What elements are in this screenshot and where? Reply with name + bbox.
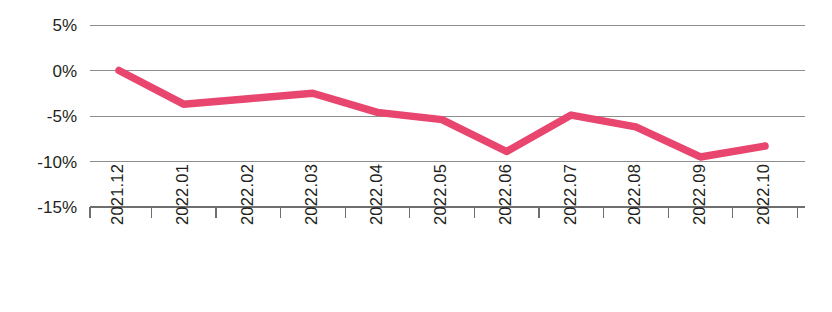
x-axis-tick-label: 2022.02	[238, 164, 256, 225]
x-axis-tick-label: 2022.03	[302, 164, 320, 225]
x-axis-tick-label: 2022.07	[561, 164, 579, 225]
y-axis-tick-label: 5%	[52, 16, 77, 35]
x-axis-tick-label: 2022.05	[431, 164, 449, 225]
x-axis-tick-label: 2021.12	[108, 164, 126, 225]
x-axis-tick-label: 2022.10	[754, 164, 772, 225]
y-axis-tick-label: -5%	[47, 107, 77, 126]
x-axis-tick-label: 2022.09	[690, 164, 708, 225]
y-axis-tick-labels: 5%0%-5%-10%-15%	[37, 16, 77, 217]
line-chart: 5%0%-5%-10%-15% 2021.122022.012022.02202…	[0, 0, 832, 312]
chart-canvas: 5%0%-5%-10%-15% 2021.122022.012022.02202…	[0, 0, 832, 312]
x-axis-tick-label: 2022.06	[496, 164, 514, 225]
x-axis-tick-label: 2022.08	[625, 164, 643, 225]
x-axis-tick-label: 2022.04	[367, 164, 385, 225]
x-axis-tick-label: 2022.01	[173, 164, 191, 225]
y-axis-tick-label: -10%	[37, 153, 77, 172]
x-axis-tick-labels: 2021.122022.012022.022022.032022.042022.…	[108, 164, 772, 225]
y-axis-tick-label: -15%	[37, 198, 77, 217]
y-axis-tick-label: 0%	[52, 62, 77, 81]
gridlines	[90, 25, 805, 162]
data-series-line	[119, 71, 765, 157]
